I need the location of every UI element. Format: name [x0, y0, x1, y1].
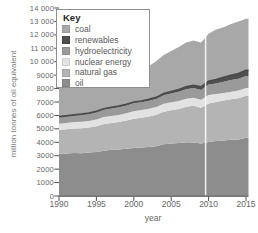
stacked-area-energy-chart: million tonnes of oil equivalent 0100020…	[0, 0, 258, 233]
legend-swatch-renewables	[62, 36, 70, 44]
x-axis-title: year	[59, 213, 247, 223]
legend-label: coal	[75, 25, 91, 34]
legend-label: nuclear energy	[75, 58, 131, 67]
legend-item-oil: oil	[62, 78, 149, 89]
legend-label: renewables	[75, 36, 118, 45]
legend-label: natural gas	[75, 68, 117, 77]
legend-item-hydroelectricity: hydroelectricity	[62, 46, 149, 57]
legend-swatch-oil	[62, 79, 70, 87]
legend-swatch-nuclear-energy	[62, 58, 70, 66]
legend-item-nuclear-energy: nuclear energy	[62, 56, 149, 67]
legend-title: Key	[62, 12, 149, 24]
legend-label: oil	[75, 79, 84, 88]
y-axis-title: million tonnes of oil equivalent	[9, 51, 18, 158]
legend-item-coal: coal	[62, 24, 149, 35]
legend-item-renewables: renewables	[62, 35, 149, 46]
legend-item-natural-gas: natural gas	[62, 67, 149, 78]
legend-swatch-coal	[62, 25, 70, 33]
legend: Key coalrenewableshydroelectricitynuclea…	[56, 9, 150, 88]
legend-label: hydroelectricity	[75, 47, 132, 56]
legend-items: coalrenewableshydroelectricitynuclear en…	[62, 24, 149, 89]
legend-swatch-natural-gas	[62, 69, 70, 77]
legend-swatch-hydroelectricity	[62, 47, 70, 55]
